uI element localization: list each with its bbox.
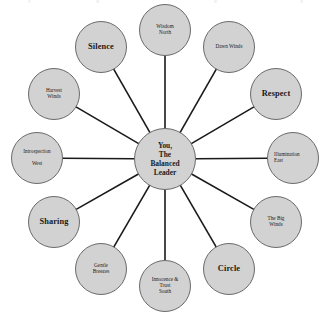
spoke-line-illumination-east <box>195 158 268 159</box>
node-wisdom-north[interactable]: Wisdom North <box>139 4 191 56</box>
node-label: Wisdom North <box>140 24 190 36</box>
node-the-big-winds[interactable]: The Big Winds <box>250 196 302 248</box>
spoke-line-dawn-winds <box>180 69 217 133</box>
node-harvest-winds[interactable]: Harvest Winds <box>28 68 80 120</box>
node-label: Introspection West <box>12 149 62 166</box>
spoke-line-sharing <box>76 174 139 210</box>
scan-artifact-top <box>0 0 331 3</box>
balanced-leader-wheel-diagram: Wisdom North Dawn Winds Respect Illumina… <box>0 0 331 314</box>
node-label: Circle <box>204 264 254 273</box>
node-label: Respect <box>251 89 301 98</box>
node-respect[interactable]: Respect <box>250 68 302 120</box>
node-sharing[interactable]: Sharing <box>28 196 80 248</box>
node-circle[interactable]: Circle <box>203 243 255 295</box>
spoke-line-respect <box>191 107 255 144</box>
node-label: Innocence & Trust South <box>140 277 190 294</box>
spoke-line-introspection-west <box>62 158 135 159</box>
node-dawn-winds[interactable]: Dawn Winds <box>203 21 255 73</box>
node-center-balanced-leader[interactable]: You, The Balanced Leader <box>134 128 196 190</box>
spoke-line-silence <box>113 69 150 133</box>
node-label: Silence <box>76 42 126 51</box>
node-label: Illumination East <box>268 152 318 164</box>
spoke-line-harvest-winds <box>76 107 140 144</box>
spoke-line-gentle-breezes <box>114 185 150 247</box>
node-innocence-trust-south[interactable]: Innocence & Trust South <box>139 260 191 312</box>
node-label: Dawn Winds <box>204 44 254 50</box>
node-illumination-east[interactable]: Illumination East <box>267 132 319 184</box>
node-label: You, The Balanced Leader <box>135 141 195 177</box>
node-introspection-west[interactable]: Introspection West <box>11 132 63 184</box>
node-label: Sharing <box>29 217 79 226</box>
node-label: The Big Winds <box>251 216 301 228</box>
node-silence[interactable]: Silence <box>75 21 127 73</box>
node-label: Gentle Breezes <box>76 263 126 275</box>
node-gentle-breezes[interactable]: Gentle Breezes <box>75 243 127 295</box>
node-label: Harvest Winds <box>29 88 79 100</box>
spoke-line-circle <box>180 185 216 247</box>
spoke-line-the-big-winds <box>191 174 254 210</box>
